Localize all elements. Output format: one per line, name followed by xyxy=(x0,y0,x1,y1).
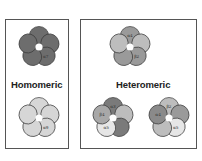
homomeric-label: Homomeric xyxy=(11,79,62,90)
subunit-label: α4 xyxy=(127,33,133,38)
subunit-label: α7 xyxy=(43,54,49,59)
channel-pore xyxy=(126,43,133,50)
channel-pore xyxy=(165,114,172,121)
subunit-label: β2 xyxy=(134,54,139,59)
subunit-label: α3 xyxy=(110,104,116,109)
channel-pore xyxy=(35,43,42,50)
subunit-label: β4 xyxy=(100,112,105,117)
flower-alpha7: α7 xyxy=(17,25,61,73)
flower-alpha3-beta4-alpha5: α3α5β4 xyxy=(91,96,135,144)
heteromeric-label: Heteromeric xyxy=(116,79,170,90)
flower-alpha9: α9 xyxy=(17,96,61,144)
flower-alpha4-beta2: α4β2 xyxy=(108,25,152,73)
channel-pore xyxy=(109,114,116,121)
subunit-label: α5 xyxy=(173,125,179,130)
subunit-label: β2 xyxy=(166,104,171,109)
subunit-label: α5 xyxy=(103,125,109,130)
subunit-label: α9 xyxy=(43,125,49,130)
channel-pore xyxy=(35,114,42,121)
subunit-label: α4 xyxy=(155,112,161,117)
flower-alpha4-beta2-alpha5: β2α5α4 xyxy=(147,96,191,144)
